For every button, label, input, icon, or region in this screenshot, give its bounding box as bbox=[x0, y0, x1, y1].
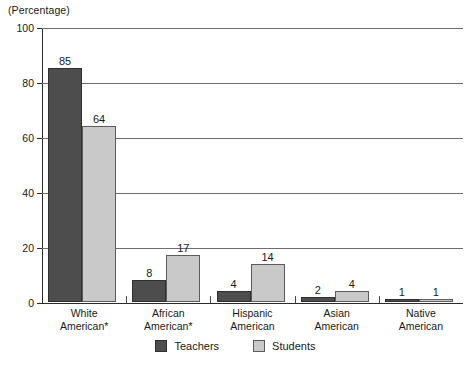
x-axis-category-label: WhiteAmerican* bbox=[42, 307, 126, 332]
legend-item-teachers[interactable]: Teachers bbox=[155, 340, 219, 352]
y-axis-tick-mark bbox=[37, 248, 42, 249]
x-axis-category-label: NativeAmerican bbox=[379, 307, 463, 332]
y-axis-unit-caption: (Percentage) bbox=[8, 4, 70, 16]
bar-value-label: 14 bbox=[261, 251, 273, 263]
category-label-line-2: American bbox=[379, 320, 463, 333]
category-label-line-2: American* bbox=[42, 320, 126, 333]
bar-teachers-0: 85 bbox=[48, 68, 82, 302]
bar-value-label: 85 bbox=[59, 55, 71, 67]
gridline bbox=[42, 83, 463, 84]
category-label-line-1: African bbox=[126, 307, 210, 320]
bar-value-label: 64 bbox=[93, 113, 105, 125]
x-axis-category-label: AsianAmerican bbox=[295, 307, 379, 332]
category-label-line-1: White bbox=[42, 307, 126, 320]
y-axis-tick-label: 60 bbox=[22, 132, 34, 144]
legend-swatch-icon bbox=[155, 340, 167, 352]
bar-teachers-2: 4 bbox=[217, 291, 251, 302]
bar-value-label: 17 bbox=[177, 242, 189, 254]
bar-students-3: 4 bbox=[335, 291, 369, 302]
bar-teachers-1: 8 bbox=[132, 280, 166, 302]
y-axis-tick-mark bbox=[37, 193, 42, 194]
category-label-line-2: American bbox=[295, 320, 379, 333]
y-axis-line bbox=[42, 28, 43, 304]
x-axis-category-label: AfricanAmerican* bbox=[126, 307, 210, 332]
plot-area: 020406080100 85648174142411 bbox=[42, 28, 463, 303]
y-axis-tick-label: 20 bbox=[22, 242, 34, 254]
category-label-line-2: American bbox=[210, 320, 294, 333]
category-label-line-2: American* bbox=[126, 320, 210, 333]
x-axis-baseline bbox=[42, 303, 463, 304]
x-axis-separator bbox=[126, 296, 127, 303]
bar-students-2: 14 bbox=[251, 264, 285, 303]
bar-students-0: 64 bbox=[82, 126, 116, 302]
y-axis-tick-mark bbox=[37, 138, 42, 139]
bar-value-label: 8 bbox=[146, 267, 152, 279]
bar-value-label: 4 bbox=[349, 278, 355, 290]
bar-students-1: 17 bbox=[166, 255, 200, 302]
bar-teachers-4: 1 bbox=[385, 299, 419, 302]
x-axis-separator bbox=[210, 296, 211, 303]
y-axis-tick-label: 40 bbox=[22, 187, 34, 199]
bar-value-label: 4 bbox=[230, 278, 236, 290]
category-label-line-1: Hispanic bbox=[210, 307, 294, 320]
y-axis-tick-label: 100 bbox=[16, 22, 34, 34]
bar-value-label: 2 bbox=[315, 284, 321, 296]
bar-value-label: 1 bbox=[433, 286, 439, 298]
bar-chart: (Percentage) 020406080100 85648174142411… bbox=[0, 0, 471, 366]
y-axis-tick-label: 80 bbox=[22, 77, 34, 89]
bar-teachers-3: 2 bbox=[301, 297, 335, 303]
category-label-line-1: Asian bbox=[295, 307, 379, 320]
x-axis-separator bbox=[295, 296, 296, 303]
category-label-line-1: Native bbox=[379, 307, 463, 320]
gridline bbox=[42, 28, 463, 29]
legend-label: Students bbox=[272, 340, 315, 352]
y-axis-tick-mark bbox=[37, 303, 42, 304]
chart-legend: TeachersStudents bbox=[0, 340, 471, 352]
x-axis-category-label: HispanicAmerican bbox=[210, 307, 294, 332]
legend-label: Teachers bbox=[174, 340, 219, 352]
legend-swatch-icon bbox=[253, 340, 265, 352]
y-axis-tick-mark bbox=[37, 83, 42, 84]
bar-value-label: 1 bbox=[399, 286, 405, 298]
legend-item-students[interactable]: Students bbox=[253, 340, 315, 352]
x-axis-separator bbox=[379, 296, 380, 303]
y-axis-tick-label: 0 bbox=[28, 297, 34, 309]
y-axis-tick-mark bbox=[37, 28, 42, 29]
bar-students-4: 1 bbox=[419, 299, 453, 302]
